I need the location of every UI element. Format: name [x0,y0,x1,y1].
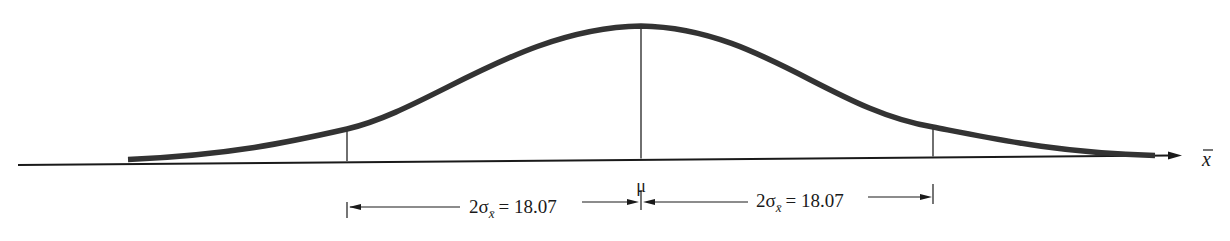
left-interval-label: 2σx̄= 18.07 [469,196,557,221]
right-interval-label: 2σx̄= 18.07 [756,190,844,215]
arrow-left-icon [349,204,361,210]
normal-curve-diagram: x μ 2σx̄= 18.07 2σx̄= 18.07 [0,0,1230,241]
axis-arrow-icon [1168,152,1182,160]
arrow-right-icon [627,199,639,205]
axis-label: x [1201,148,1211,170]
arrow-right-icon [920,194,932,200]
